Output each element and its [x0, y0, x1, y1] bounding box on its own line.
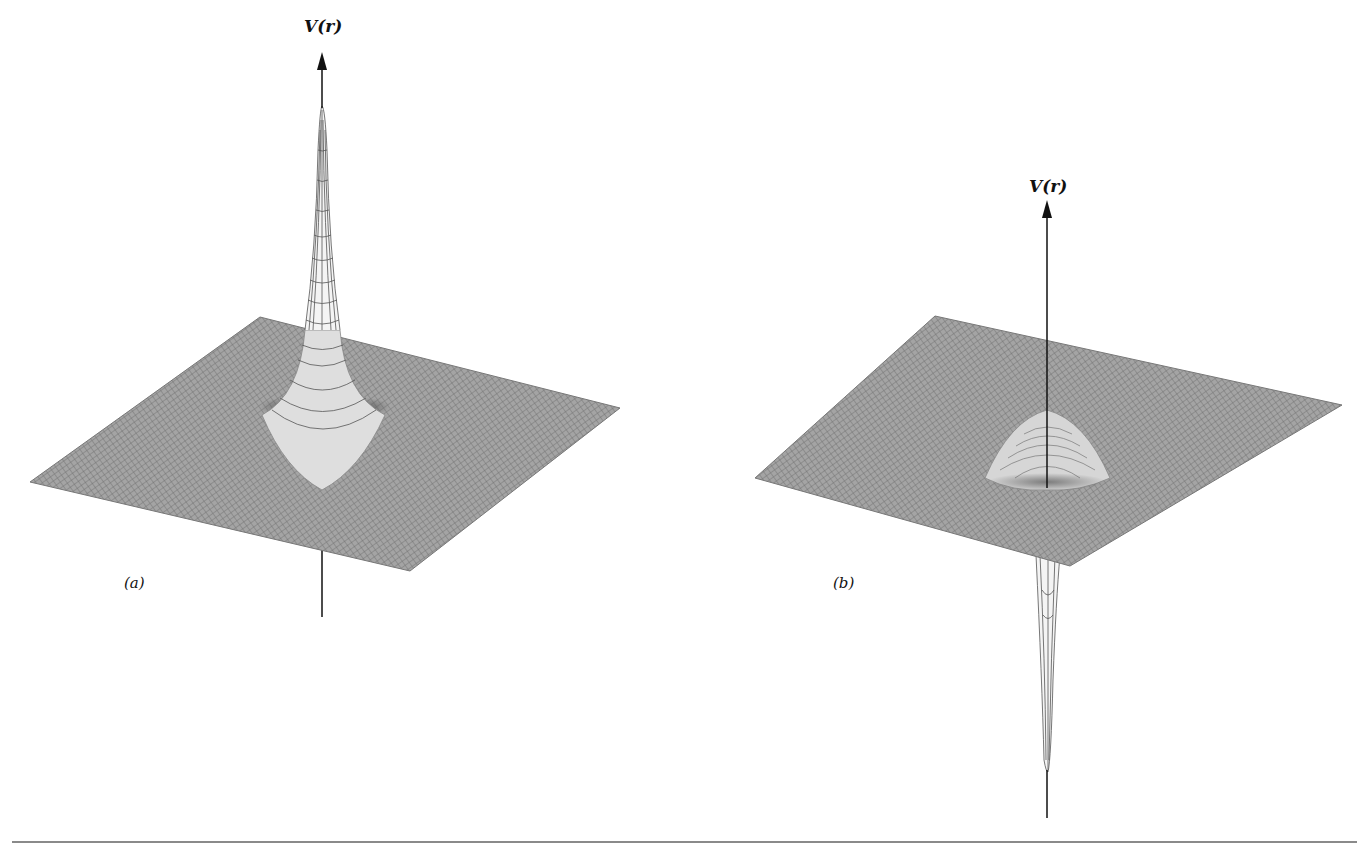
figure-canvas — [0, 0, 1367, 850]
surface-well-b — [1036, 555, 1060, 772]
arrow-up-icon-a — [317, 52, 327, 70]
panel-label-a: (a) — [124, 574, 145, 592]
panel-b — [755, 200, 1342, 818]
panel-a — [30, 52, 620, 617]
arrow-up-icon-b — [1042, 200, 1052, 218]
axis-label-a: V(r) — [304, 16, 342, 36]
bottom-rule — [12, 841, 1357, 843]
panel-label-b: (b) — [833, 574, 854, 592]
axis-label-b: V(r) — [1029, 176, 1067, 196]
